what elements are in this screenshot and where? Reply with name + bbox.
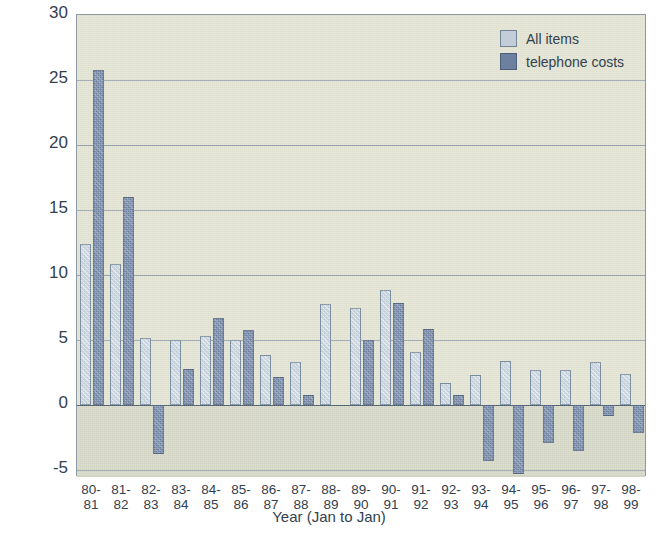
bar (500, 361, 512, 405)
x-tick-line: 85- (226, 482, 256, 497)
bar (380, 290, 392, 406)
bar (260, 355, 272, 406)
y-tick-label: 25 (49, 68, 68, 88)
x-tick-line: 82- (136, 482, 166, 497)
x-tick-line: 94- (496, 482, 526, 497)
x-tick-line: 88- (316, 482, 346, 497)
bar (513, 405, 525, 474)
y-tick-label: 30 (49, 3, 68, 23)
gridline-15 (77, 210, 645, 211)
bar (110, 264, 122, 406)
bar (453, 395, 465, 405)
y-tick-label: 0 (59, 393, 68, 413)
bar (363, 340, 375, 405)
chart-figure: % annual change (Jan to Jan) 30252015105… (0, 0, 658, 537)
x-tick-line: 90- (376, 482, 406, 497)
x-tick-line: 80- (76, 482, 106, 497)
x-tick-line: 81- (106, 482, 136, 497)
y-tick-label: 5 (59, 328, 68, 348)
bar (243, 330, 255, 405)
bar (440, 383, 452, 405)
bar (483, 405, 495, 461)
x-tick-line: 87- (286, 482, 316, 497)
x-tick-line: 92- (436, 482, 466, 497)
y-tick-label: 15 (49, 198, 68, 218)
legend-label: All items (526, 31, 579, 47)
bar (393, 303, 405, 406)
x-tick-line: 97- (586, 482, 616, 497)
x-axis-title: Year (Jan to Jan) (0, 508, 658, 525)
x-tick-line: 98- (616, 482, 646, 497)
x-tick-line: 93- (466, 482, 496, 497)
gridline-20 (77, 145, 645, 146)
gridline--5 (77, 470, 645, 471)
bar (560, 370, 572, 405)
y-tick-label: 10 (49, 263, 68, 283)
bar (93, 70, 105, 406)
bar (170, 340, 182, 405)
bar (153, 405, 165, 453)
bar (80, 244, 92, 405)
bar (423, 329, 435, 406)
bar (543, 405, 555, 443)
bar (230, 340, 242, 405)
chart-legend: All itemstelephone costs (500, 30, 624, 76)
x-tick-line: 89- (346, 482, 376, 497)
bar (303, 395, 315, 405)
x-tick-line: 84- (196, 482, 226, 497)
bar (200, 336, 212, 405)
bar (530, 370, 542, 405)
bar (183, 369, 195, 405)
x-tick-line: 83- (166, 482, 196, 497)
plot-area (76, 14, 646, 476)
legend-swatch-icon (500, 30, 517, 47)
x-tick-line: 96- (556, 482, 586, 497)
bar (350, 308, 362, 406)
x-tick-line: 95- (526, 482, 556, 497)
y-tick-label: 20 (49, 133, 68, 153)
legend-label: telephone costs (526, 54, 624, 70)
gridline-10 (77, 275, 645, 276)
bar (633, 405, 645, 432)
y-tick-label: -5 (53, 458, 68, 478)
bar (273, 377, 285, 406)
bar (140, 338, 152, 406)
bar (410, 352, 422, 405)
legend-item: All items (500, 30, 624, 47)
bar (470, 375, 482, 405)
bar (603, 405, 615, 415)
bar (320, 304, 332, 406)
x-tick-line: 91- (406, 482, 436, 497)
bar (573, 405, 585, 451)
gridline-25 (77, 80, 645, 81)
bar (213, 318, 225, 405)
bar (590, 362, 602, 405)
bar (123, 197, 135, 405)
bar (620, 374, 632, 405)
x-tick-line: 86- (256, 482, 286, 497)
legend-swatch-icon (500, 53, 517, 70)
bar (290, 362, 302, 405)
legend-item: telephone costs (500, 53, 624, 70)
